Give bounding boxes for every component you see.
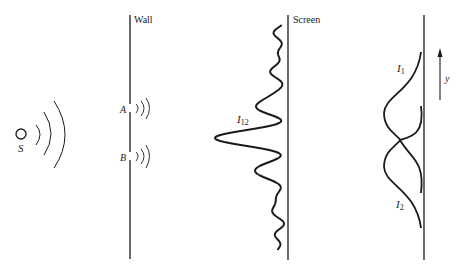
intensity-2-label: I2 bbox=[395, 198, 404, 212]
intensity-1-subscript: 1 bbox=[401, 67, 405, 76]
diagram-canvas: S Wall A B Screen I12 I1 bbox=[0, 0, 463, 271]
slit-b-wavefront-2 bbox=[141, 149, 144, 164]
interference-pattern-curve bbox=[215, 25, 284, 250]
source-label: S bbox=[18, 142, 24, 154]
slit-b-wavefront-1 bbox=[136, 152, 138, 161]
intensity-2-subscript: 2 bbox=[400, 203, 404, 212]
wall-label: Wall bbox=[134, 14, 153, 25]
y-axis-arrow-head bbox=[438, 48, 443, 57]
screen-label: Screen bbox=[293, 14, 320, 25]
y-axis-label: y bbox=[444, 73, 450, 84]
slit-b-wavefront-3 bbox=[146, 145, 150, 168]
source-wavefront-1 bbox=[36, 125, 40, 145]
slit-a-wavefront-2 bbox=[141, 101, 144, 116]
combined-intensity-subscript: 12 bbox=[241, 118, 249, 127]
single-slit-group: I1 I2 y bbox=[384, 15, 450, 260]
slit-a-wavefront-3 bbox=[146, 98, 150, 119]
slit-a-label: A bbox=[119, 104, 127, 115]
screen-group: Screen I12 bbox=[215, 14, 320, 260]
wall-group: Wall A B bbox=[119, 14, 153, 259]
source-wavefront-3 bbox=[54, 101, 65, 168]
diagram-svg: S Wall A B Screen I12 I1 bbox=[0, 0, 463, 271]
slit-a-wavefront-1 bbox=[136, 104, 138, 113]
slit-b-label: B bbox=[120, 152, 126, 163]
source-group: S bbox=[16, 101, 65, 168]
combined-intensity-label: I12 bbox=[236, 113, 249, 127]
source-circle bbox=[16, 129, 26, 139]
source-wavefront-2 bbox=[44, 112, 51, 155]
intensity-1-label: I1 bbox=[396, 62, 405, 76]
